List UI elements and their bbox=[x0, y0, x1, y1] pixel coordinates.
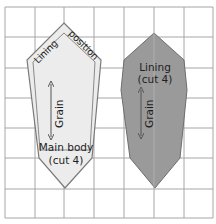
grain-label: Grain bbox=[53, 100, 65, 128]
lining-label-line2: (cut 4) bbox=[138, 73, 173, 85]
main-body-label-line1: Main body bbox=[39, 141, 93, 153]
lining-grain-label: Grain bbox=[143, 100, 155, 128]
lining-label-line1: Lining bbox=[139, 61, 171, 73]
pattern-diagram: Lining Grain Main body (cut 4) Lining (c… bbox=[0, 0, 216, 224]
lining-piece: Lining (cut 4) Grain bbox=[121, 33, 187, 188]
main-body-label-line2: (cut 4) bbox=[49, 154, 84, 166]
